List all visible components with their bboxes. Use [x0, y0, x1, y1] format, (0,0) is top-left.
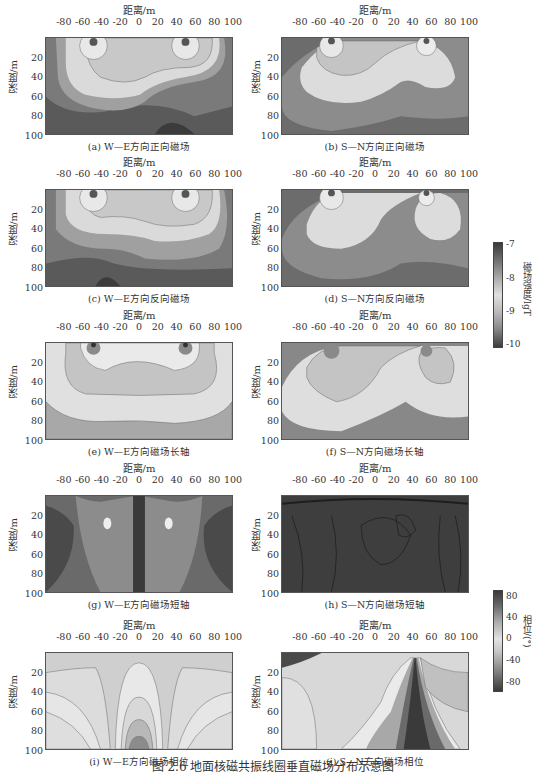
x-tick: 0: [136, 16, 142, 27]
y-tick: 20: [267, 203, 279, 214]
x-tick: -40: [94, 631, 109, 642]
y-tick: 80: [267, 110, 279, 121]
x-tick: -80: [292, 631, 307, 642]
x-tick: -40: [94, 16, 109, 27]
x-tick: 80: [444, 16, 456, 27]
x-tick: -40: [330, 631, 345, 642]
x-axis-label: 距离/m: [281, 154, 469, 169]
y-tick: 100: [261, 130, 279, 141]
y-tick: 80: [31, 415, 43, 426]
x-tick: 100: [460, 168, 478, 179]
y-tick: 100: [261, 745, 279, 756]
x-tick: 80: [208, 631, 220, 642]
contour-plot-b: [281, 37, 469, 135]
y-ticks: 20406080100: [23, 189, 43, 287]
x-tick: 20: [388, 474, 400, 485]
x-tick: -80: [292, 168, 307, 179]
x-tick: -40: [94, 168, 109, 179]
y-axis-label: 深度/m: [6, 518, 21, 551]
x-tick: -60: [311, 168, 326, 179]
x-tick: 60: [189, 321, 201, 332]
x-tick: 20: [152, 321, 164, 332]
x-tick: 40: [171, 321, 183, 332]
x-tick: 100: [224, 631, 242, 642]
x-axis-label: 距离/m: [45, 2, 233, 17]
x-tick: 60: [425, 16, 437, 27]
y-tick: 60: [267, 90, 279, 101]
x-ticks: -80-60-40-20020406080100: [45, 168, 233, 180]
x-tick: 20: [152, 474, 164, 485]
x-tick: -80: [292, 321, 307, 332]
y-tick: 20: [31, 666, 43, 677]
x-tick: 0: [372, 631, 378, 642]
x-tick: -20: [113, 168, 128, 179]
x-axis-label: 距离/m: [45, 307, 233, 322]
y-axis-label: 深度/m: [6, 212, 21, 245]
contour-plot-a: [45, 37, 233, 135]
x-ticks: -80-60-40-20020406080100: [281, 16, 469, 28]
x-tick: -60: [311, 321, 326, 332]
contour-plot-h: [281, 495, 469, 593]
panel-a: 距离/m -80-60-40-20020406080100 深度/m 20406…: [0, 0, 270, 152]
x-tick: -20: [349, 474, 364, 485]
y-tick: 100: [261, 588, 279, 599]
x-tick: 40: [171, 16, 183, 27]
x-tick: 40: [407, 16, 419, 27]
panel-g: 距离/m -80-60-40-20020406080100 深度/m 20406…: [0, 458, 270, 610]
y-tick: 100: [25, 745, 43, 756]
cbar2-tick: -80: [506, 677, 521, 687]
x-tick: 0: [136, 321, 142, 332]
x-ticks: -80-60-40-20020406080100: [281, 631, 469, 643]
x-tick: 20: [388, 631, 400, 642]
x-tick: -80: [292, 474, 307, 485]
y-tick: 40: [31, 529, 43, 540]
x-axis-label: 距离/m: [281, 307, 469, 322]
panel-h: 距离/m -80-60-40-20020406080100 深度/m 20406…: [273, 458, 543, 610]
x-tick: -80: [56, 474, 71, 485]
x-tick: 100: [460, 474, 478, 485]
x-tick: -80: [56, 168, 71, 179]
x-tick: -40: [94, 321, 109, 332]
x-tick: 80: [444, 631, 456, 642]
y-tick: 60: [267, 705, 279, 716]
x-tick: 0: [136, 168, 142, 179]
cbar2-tick: 40: [506, 612, 517, 622]
y-tick: 40: [267, 71, 279, 82]
x-tick: 100: [460, 631, 478, 642]
x-ticks: -80-60-40-20020406080100: [281, 474, 469, 486]
x-tick: -80: [56, 631, 71, 642]
y-tick: 60: [31, 90, 43, 101]
x-tick: 0: [372, 168, 378, 179]
y-tick: 20: [267, 356, 279, 367]
y-tick: 60: [31, 242, 43, 253]
x-tick: 0: [372, 321, 378, 332]
y-tick: 80: [267, 262, 279, 273]
x-tick: -20: [113, 16, 128, 27]
panel-caption: (b) S—N方向正向磁场: [281, 139, 469, 153]
x-tick: -40: [330, 168, 345, 179]
x-axis-label: 距离/m: [281, 617, 469, 632]
panel-caption: (f) S—N方向磁场长轴: [281, 444, 469, 458]
x-tick: 0: [136, 631, 142, 642]
x-tick: -80: [292, 16, 307, 27]
y-tick: 80: [267, 725, 279, 736]
y-tick: 20: [31, 203, 43, 214]
x-tick: 100: [460, 321, 478, 332]
x-tick: 40: [171, 631, 183, 642]
panel-caption: (d) S—N方向反向磁场: [281, 291, 469, 305]
x-axis-label: 距离/m: [45, 617, 233, 632]
y-tick: 80: [31, 568, 43, 579]
y-tick: 40: [31, 223, 43, 234]
y-tick: 20: [31, 356, 43, 367]
y-tick: 20: [267, 666, 279, 677]
cbar2-tick: -40: [506, 655, 521, 665]
panel-b: 距离/m -80-60-40-20020406080100 深度/m 20406…: [273, 0, 543, 152]
y-tick: 60: [267, 548, 279, 559]
x-tick: 60: [189, 631, 201, 642]
x-tick: -60: [311, 16, 326, 27]
contour-plot-j: [281, 652, 469, 750]
x-tick: -40: [330, 321, 345, 332]
x-axis-label: 距离/m: [281, 460, 469, 475]
colorbar-phase: [493, 590, 503, 692]
x-tick: 100: [224, 168, 242, 179]
